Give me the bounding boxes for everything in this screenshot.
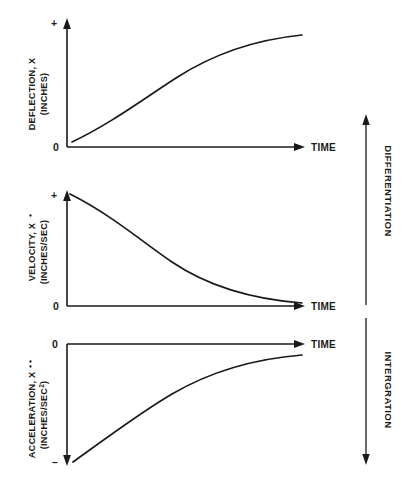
velocity-ylabel-line2: (INCHES/SEC) — [39, 220, 49, 285]
deflection-x-axis — [67, 143, 305, 151]
deflection-tick-plus: + — [51, 17, 57, 29]
physics-motion-diagram: + 0 TIME DEFLECTION, X (INCHES) + 0 TIME… — [0, 0, 404, 484]
velocity-x-axis — [67, 302, 305, 310]
plot-acceleration: 0 – TIME ACCELERATION, X (INCHES/SEC2) — [27, 338, 336, 468]
velocity-xlabel: TIME — [311, 301, 336, 312]
annotation-integration: INTERGRATION — [362, 318, 394, 465]
annotation-differentiation: DIFFERENTIATION — [362, 114, 394, 305]
deflection-ylabel-line1: DEFLECTION, X — [27, 57, 37, 130]
acceleration-x-axis — [67, 340, 305, 348]
deflection-xlabel: TIME — [311, 142, 336, 153]
velocity-derivative-dot — [29, 214, 31, 216]
deflection-tick-zero: 0 — [53, 141, 59, 153]
acceleration-ylabel-line1: ACCELERATION, X — [27, 371, 37, 458]
velocity-y-axis — [63, 190, 71, 306]
deflection-y-axis — [63, 18, 71, 147]
acceleration-derivative-dot-2 — [29, 365, 31, 367]
acceleration-tick-zero: 0 — [52, 338, 58, 350]
acceleration-tick-minus: – — [52, 456, 58, 468]
differentiation-label: DIFFERENTIATION — [383, 145, 394, 237]
deflection-curve — [72, 35, 302, 142]
acceleration-derivative-dot-1 — [29, 360, 31, 362]
acceleration-ylabel-line2: (INCHES/SEC2) — [38, 381, 49, 450]
acceleration-y-axis — [63, 344, 71, 466]
integration-label: INTERGRATION — [383, 351, 394, 428]
plot-velocity: + 0 TIME VELOCITY, X (INCHES/SEC) — [27, 189, 336, 312]
acceleration-curve — [73, 355, 302, 462]
acceleration-xlabel: TIME — [311, 339, 336, 350]
velocity-curve — [70, 194, 302, 303]
velocity-ylabel-line1: VELOCITY, X — [27, 222, 37, 281]
velocity-tick-plus: + — [51, 189, 57, 201]
velocity-tick-zero: 0 — [53, 300, 59, 312]
deflection-ylabel-line2: (INCHES) — [39, 73, 49, 115]
plot-deflection: + 0 TIME DEFLECTION, X (INCHES) — [27, 17, 336, 153]
